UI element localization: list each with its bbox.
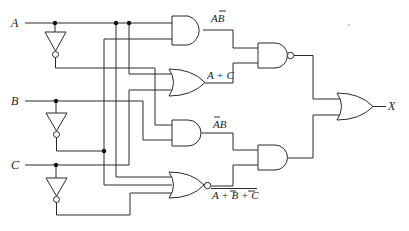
inverter-c [46, 178, 172, 215]
output-label-x: X [387, 99, 396, 113]
and-gate-1: AB [172, 11, 258, 48]
wire-c [25, 90, 172, 178]
nor-gate: A + B + C [169, 165, 259, 201]
inverter-a [45, 32, 172, 125]
input-label-a: A [10, 16, 19, 30]
label-a-plus-c: A + C [206, 69, 234, 81]
input-label-b: B [11, 94, 19, 108]
or-gate-output: X [337, 93, 396, 120]
logic-circuit-diagram: A B C [0, 0, 409, 231]
stray-dot [348, 24, 350, 26]
inverter-b [46, 39, 172, 185]
input-label-c: C [11, 158, 20, 172]
label-a-bbar: AB [210, 12, 225, 24]
and-gate-3 [258, 115, 340, 170]
wire-b [25, 101, 172, 140]
label-abar-b: AB [212, 118, 227, 130]
and-gate-2: AB [172, 117, 258, 150]
junction-dots [53, 21, 131, 167]
nand-gate [258, 43, 340, 99]
wire-a [25, 23, 172, 177]
or-gate-1: A + C [169, 63, 258, 96]
